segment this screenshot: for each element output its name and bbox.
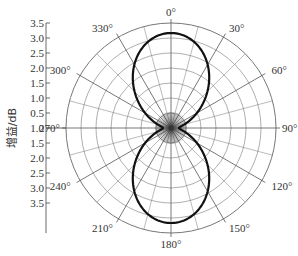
polar-gain-chart: 3.53.02.52.01.51.00.51.01.52.02.53.03.5 … <box>0 0 298 256</box>
radial-tick-label: 2.5 <box>30 47 44 59</box>
radial-tick-label: 0.5 <box>30 107 44 119</box>
radial-tick-label: 2.0 <box>30 62 44 74</box>
angle-label: 300° <box>50 64 71 76</box>
radial-tick-label: 1.0 <box>30 92 44 104</box>
radial-tick-label: 3.0 <box>30 32 44 44</box>
angle-label: 150° <box>229 222 250 234</box>
radial-tick-label: 3.0 <box>30 182 44 194</box>
radial-tick-label: 2.0 <box>30 152 44 164</box>
angle-label: 30° <box>229 22 244 34</box>
y-axis-label: 增益/dB <box>5 108 19 148</box>
radial-tick-label: 3.5 <box>30 197 44 209</box>
grid-spoke <box>77 128 171 183</box>
grid-spoke <box>171 128 265 183</box>
angle-label: 0° <box>166 6 176 18</box>
angle-label: 210° <box>92 222 113 234</box>
angle-label: 60° <box>271 64 286 76</box>
angle-label: 180° <box>161 238 182 250</box>
radial-tick-label: 1.5 <box>30 77 44 89</box>
radial-tick-label: 2.5 <box>30 167 44 179</box>
grid-spoke <box>77 74 171 129</box>
angle-label: 120° <box>271 180 292 192</box>
angle-label: 270° <box>39 122 60 134</box>
radial-tick-label: 3.5 <box>30 17 44 29</box>
angle-label: 90° <box>282 122 297 134</box>
radial-tick-label: 1.5 <box>30 137 44 149</box>
polar-grid <box>62 19 280 237</box>
grid-spoke <box>171 74 265 129</box>
angle-label: 330° <box>92 22 113 34</box>
angle-label: 240° <box>50 180 71 192</box>
